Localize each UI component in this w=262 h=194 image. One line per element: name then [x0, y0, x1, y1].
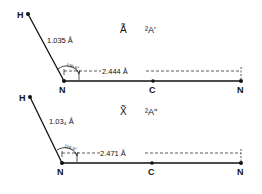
nh-bond-length: 1.035 Å — [47, 36, 73, 45]
state-symbol: Ã — [120, 23, 127, 35]
atom-n1-dot — [62, 79, 66, 83]
atom-n2-label: N — [237, 167, 244, 177]
atom-n2-dot — [239, 161, 243, 165]
state-term: ²A″ — [145, 107, 158, 117]
molecular-geometry-diagram: H N C N 1.035 Å 2.444 Å 120.6° Ã ²A′ H N… — [0, 0, 262, 194]
nn-distance: 2.444 Å — [102, 67, 128, 76]
atom-n1-label: N — [57, 167, 64, 177]
panel-x-tilde: H N C N 1.03₄ Å 2.471 Å 116.5° X̃ ²A″ — [19, 93, 244, 177]
atom-n1-dot — [60, 161, 64, 165]
atom-n2-label: N — [237, 85, 244, 95]
atom-h-label: H — [19, 93, 26, 103]
panel-a-tilde: H N C N 1.035 Å 2.444 Å 120.6° Ã ²A′ — [17, 10, 244, 95]
state-term: ²A′ — [145, 25, 156, 35]
atom-h-label: H — [17, 10, 24, 20]
atom-c-label: C — [148, 167, 155, 177]
atom-c-dot — [150, 161, 154, 165]
atom-c-label: C — [149, 85, 156, 95]
atom-n1-label: N — [59, 85, 66, 95]
atom-c-dot — [151, 79, 155, 83]
nh-bond — [30, 97, 62, 163]
atom-n2-dot — [239, 79, 243, 83]
nn-distance: 2.471 Å — [100, 149, 126, 158]
angle-value: 116.5° — [64, 143, 78, 152]
nh-bond — [28, 14, 64, 81]
angle-value: 120.6° — [66, 62, 80, 71]
nh-bond-length: 1.03₄ Å — [49, 117, 74, 126]
atom-h-dot — [26, 12, 30, 16]
atom-h-dot — [28, 95, 32, 99]
state-symbol: X̃ — [120, 105, 127, 117]
